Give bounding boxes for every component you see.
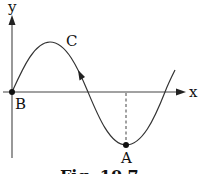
wave-diagram: y x B C A Fig. 10.7 [0,0,198,174]
y-axis-arrow-icon [9,15,16,25]
point-b-label: B [15,95,26,113]
point-a-label: A [120,149,132,167]
x-axis [3,89,186,96]
wave-curve [12,42,175,145]
x-axis-label: x [189,83,198,101]
y-axis-label: y [7,0,17,16]
figure-caption: Fig. 10.7 [60,167,139,174]
x-axis-arrow-icon [176,89,186,96]
direction-arrow-icon [78,70,85,81]
point-a-dot [123,142,129,148]
point-c-label: C [66,32,77,50]
